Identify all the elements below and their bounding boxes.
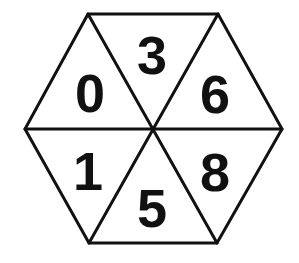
segment-upper-right-digit: 6 [200,64,230,124]
segment-upper-left-digit: 0 [75,63,105,123]
segment-bottom-digit: 5 [137,178,167,238]
segment-lower-right-digit: 8 [200,142,230,202]
segment-top-digit: 3 [137,25,167,85]
hexagon-diagram: 0 3 6 1 5 8 [0,0,299,263]
segment-lower-left-digit: 1 [73,141,103,201]
